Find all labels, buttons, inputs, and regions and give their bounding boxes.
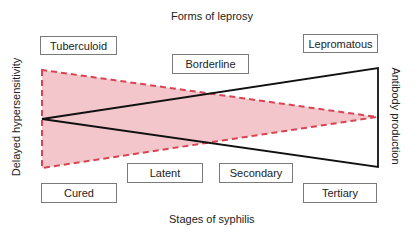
delayed-hypersensitivity-wedge xyxy=(42,70,377,168)
syphilis-stage-latent: Latent xyxy=(127,163,203,183)
delayed-hypersensitivity-label: Delayed hypersensitivity xyxy=(10,52,22,182)
leprosy-form-lepromatous: Lepromatous xyxy=(303,34,378,53)
antibody-production-label: Antibody production xyxy=(390,56,402,176)
syphilis-stage-cured: Cured xyxy=(41,183,117,203)
leprosy-form-tuberculoid: Tuberculoid xyxy=(40,36,117,55)
syphilis-stage-secondary: Secondary xyxy=(219,163,293,183)
syphilis-stage-tertiary: Tertiary xyxy=(303,183,377,203)
leprosy-forms-title: Forms of leprosy xyxy=(171,10,253,22)
syphilis-stages-title: Stages of syphilis xyxy=(169,213,255,225)
leprosy-form-borderline: Borderline xyxy=(172,54,249,74)
